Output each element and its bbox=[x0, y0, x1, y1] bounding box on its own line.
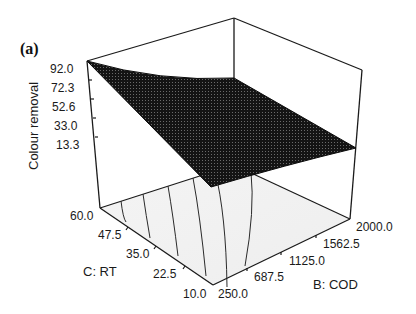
response-surface bbox=[87, 61, 356, 187]
panel-label: (a) bbox=[20, 40, 39, 58]
surface-plot-figure: (a) Colour removal 92.0 72.3 52.6 33.0 1… bbox=[0, 0, 416, 314]
cod-tick-1125: 1125.0 bbox=[289, 255, 325, 267]
surface-plot-canvas bbox=[0, 0, 416, 314]
z-tick-33: 33.0 bbox=[54, 120, 77, 132]
cod-axis-title: B: COD bbox=[313, 277, 358, 292]
cod-tick-250: 250.0 bbox=[218, 288, 248, 300]
rt-tick-47: 47.5 bbox=[98, 229, 121, 241]
rt-tick-60: 60.0 bbox=[70, 210, 93, 222]
cod-tick-2000: 2000.0 bbox=[356, 221, 393, 233]
rt-tick-10: 10.0 bbox=[183, 288, 206, 300]
rt-tick-22: 22.5 bbox=[153, 268, 176, 280]
z-axis-title: Colour removal bbox=[26, 82, 41, 170]
cod-tick-687: 687.5 bbox=[254, 271, 284, 283]
z-tick-13: 13.3 bbox=[56, 139, 79, 151]
z-tick-52: 52.6 bbox=[52, 101, 75, 113]
cod-tick-1562: 1562.5 bbox=[323, 238, 360, 250]
z-tick-92: 92.0 bbox=[50, 63, 73, 75]
z-tick-72: 72.3 bbox=[51, 82, 74, 94]
rt-tick-35: 35.0 bbox=[126, 248, 149, 260]
rt-axis-title: C: RT bbox=[83, 264, 117, 279]
